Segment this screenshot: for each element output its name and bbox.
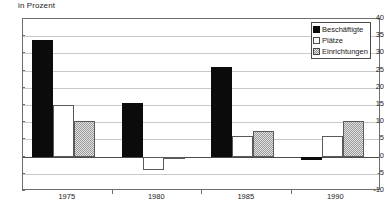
y-axis-tick-mark xyxy=(22,138,25,139)
y-axis-tick-mark xyxy=(22,18,25,19)
x-axis-tick-mark xyxy=(112,190,113,194)
x-axis-tick-mark xyxy=(201,190,202,194)
bar-1980-einrichtungen xyxy=(164,157,185,159)
y-axis-tick-label: 25 xyxy=(364,66,384,74)
legend-swatch-icon-beschaeftigte xyxy=(313,26,320,33)
x-axis-tick-label: 1980 xyxy=(148,192,165,201)
y-axis-tick-mark xyxy=(22,52,25,53)
y-axis-tick-mark xyxy=(22,87,25,88)
chart-container: in Prozent 4035302520151050-5-10 1975198… xyxy=(0,0,384,219)
y-axis-tick-mark xyxy=(22,173,25,174)
y-axis-tick-label: 5 xyxy=(364,134,384,142)
bar-1985-plätze xyxy=(232,136,253,157)
chart-legend: Beschäftigte Plätze Einrichtungen xyxy=(311,22,371,59)
y-axis-tick-label: 40 xyxy=(364,14,384,22)
bar-1985-beschäftigte xyxy=(211,67,232,156)
x-axis-tick-label: 1975 xyxy=(58,192,75,201)
bar-1980-beschäftigte xyxy=(122,103,143,156)
legend-swatch-icon-plaetze xyxy=(313,37,320,44)
bar-1990-einrichtungen xyxy=(343,121,364,157)
x-axis-tick-label: 1990 xyxy=(327,192,344,201)
legend-swatch-icon-einrichtungen xyxy=(313,48,320,55)
y-axis-tick-label: 0 xyxy=(364,152,384,160)
y-axis-tick-label: -5 xyxy=(364,169,384,177)
legend-label-plaetze: Plätze xyxy=(322,36,343,45)
y-axis-title: in Prozent xyxy=(18,1,55,10)
legend-item-beschaeftigte: Beschäftigte xyxy=(313,24,368,35)
bar-1975-plätze xyxy=(53,105,74,157)
y-axis-tick-mark xyxy=(22,156,25,157)
x-axis-tick-label: 1985 xyxy=(237,192,254,201)
bar-1975-beschäftigte xyxy=(32,40,53,157)
y-axis-tick-mark xyxy=(22,70,25,71)
bar-1980-plätze xyxy=(143,157,164,171)
x-axis-tick-mark xyxy=(291,190,292,194)
bar-1990-beschäftigte xyxy=(301,157,322,160)
legend-label-einrichtungen: Einrichtungen xyxy=(322,47,368,56)
y-axis-tick-mark xyxy=(22,104,25,105)
y-axis-tick-mark xyxy=(22,121,25,122)
legend-item-plaetze: Plätze xyxy=(313,35,368,46)
y-axis-tick-mark xyxy=(22,190,25,191)
bar-1985-einrichtungen xyxy=(253,131,274,157)
y-axis-tick-label: 10 xyxy=(364,117,384,125)
y-axis-tick-label: 20 xyxy=(364,83,384,91)
legend-label-beschaeftigte: Beschäftigte xyxy=(322,25,363,34)
y-axis-tick-mark xyxy=(22,35,25,36)
bar-1975-einrichtungen xyxy=(74,121,95,157)
y-axis-tick-label: 15 xyxy=(364,100,384,108)
legend-item-einrichtungen: Einrichtungen xyxy=(313,46,368,57)
y-axis-tick-label: -10 xyxy=(364,186,384,194)
bar-1990-plätze xyxy=(322,136,343,157)
